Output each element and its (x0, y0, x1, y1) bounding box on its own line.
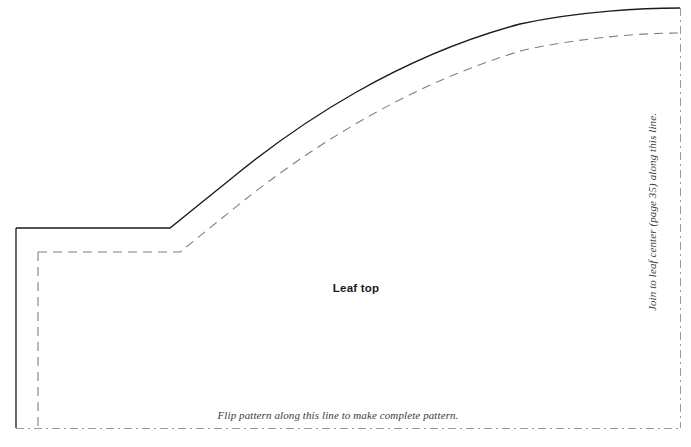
cutting-line (16, 8, 680, 228)
pattern-drawing-canvas (0, 0, 691, 447)
pattern-sheet: Leaf top Flip pattern along this line to… (0, 0, 691, 447)
fold-line-instruction: Flip pattern along this line to make com… (0, 409, 676, 421)
join-line-instruction: Join to leaf center (page 35) along this… (646, 77, 658, 347)
pattern-piece-label: Leaf top (306, 282, 406, 294)
seam-line (38, 33, 678, 252)
